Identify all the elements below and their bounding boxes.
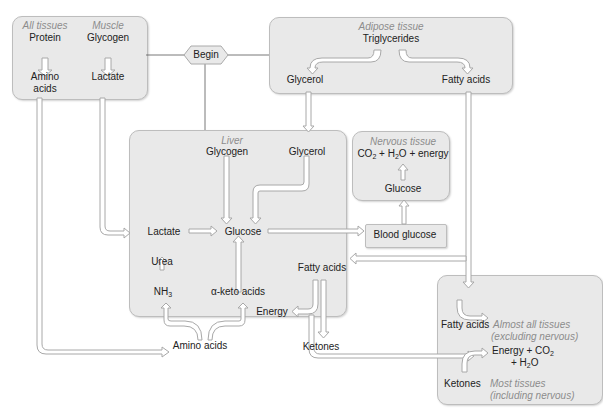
liver-glycerol: Glycerol (289, 146, 326, 158)
tissues-ketones: Ketones (444, 378, 481, 390)
muscle-label: Muscle (92, 20, 124, 32)
arrow-trig-fatty (399, 50, 473, 74)
nervous-glucose: Glucose (385, 183, 422, 195)
arrow-amino-nh3 (161, 303, 202, 340)
arrow-amino-keto (208, 303, 248, 340)
arrow-fatty-ketones (318, 280, 329, 338)
liver-glycogen: Glycogen (206, 146, 248, 158)
liver-fatty-acids: Fatty acids (298, 262, 346, 274)
arrow-glycerol-to-liver (303, 92, 314, 132)
nervous-products: CO2 + H2O + energy (357, 148, 448, 160)
arrow-blood-nervous (399, 200, 409, 224)
arrow-tissue-ketones-energy (462, 348, 488, 372)
liver-keto-acids: α-keto acids (211, 286, 265, 298)
adipose-glycerol: Glycerol (287, 74, 324, 86)
muscle-glycogen: Glycogen (87, 32, 129, 44)
adipose-label: Adipose tissue (358, 21, 423, 33)
liver-glucose: Glucose (225, 226, 262, 238)
muscle-lactate: Lactate (92, 71, 125, 83)
amino-line2: acids (33, 83, 56, 95)
energy-h2o: + H2O (511, 357, 539, 369)
arrow-lactate-to-liver (100, 98, 130, 238)
most-tissues-line2: (including nervous) (490, 390, 575, 402)
liver-amino-acids: Amino acids (173, 340, 227, 352)
arrow-fatty-acids-to-liver (350, 253, 466, 264)
arrow-fatty-energy (292, 280, 318, 317)
arrow-keto-glucose (233, 236, 244, 292)
nervous-label: Nervous tissue (370, 136, 436, 148)
tissues-fatty-acids: Fatty acids (441, 319, 489, 331)
liver-energy: Energy (256, 306, 288, 318)
triglycerides-label: Triglycerides (363, 33, 419, 45)
arrow-trig-glycerol (307, 50, 381, 74)
almost-all-line2: (excluding nervous) (491, 331, 578, 343)
arrow-nervous-energy (398, 164, 408, 180)
arrow-glycogen-glucose (221, 156, 232, 224)
amino-line1: Amino (31, 71, 59, 83)
adipose-fatty-acids: Fatty acids (442, 74, 490, 86)
energy-co2: Energy + CO2 (492, 345, 554, 357)
liver-nh3: NH3 (154, 286, 172, 298)
blood-glucose-label: Blood glucose (374, 229, 437, 241)
begin-label[interactable]: Begin (193, 49, 219, 61)
almost-all-line1: Almost all tissues (493, 319, 570, 331)
arrow-lactate-glucose (189, 226, 217, 236)
most-tissues-line1: Most tissues (490, 378, 546, 390)
liver-lactate: Lactate (148, 226, 181, 238)
liver-urea: Urea (151, 256, 173, 268)
liver-ketones: Ketones (303, 341, 340, 353)
arrow-glycerol-glucose (250, 156, 309, 224)
all-tissues-label: All tissues (22, 20, 67, 32)
protein-label: Protein (29, 32, 61, 44)
arrow-glucose-blood (268, 226, 364, 236)
